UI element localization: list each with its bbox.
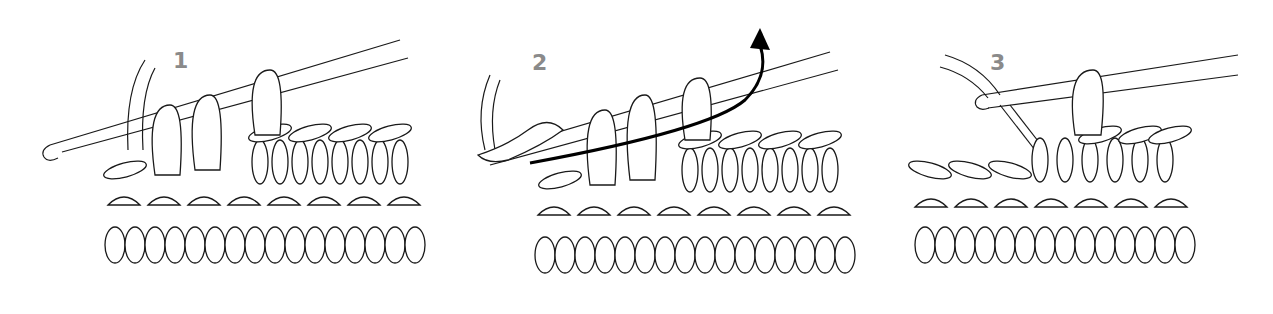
crochet-hook-single-loop-icon bbox=[870, 0, 1273, 314]
fabric-rows bbox=[102, 121, 425, 263]
step-3-panel: 3 bbox=[870, 0, 1273, 314]
step-1-panel: 1 bbox=[0, 0, 450, 314]
step-2-panel: 2 bbox=[450, 0, 870, 314]
crochet-hook-with-loops-icon bbox=[0, 0, 450, 314]
yarn-over-pull-through-arrow-icon bbox=[450, 0, 870, 314]
